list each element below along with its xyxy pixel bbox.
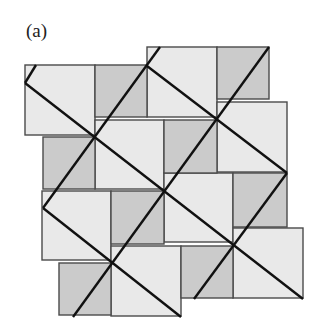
small-square (111, 191, 164, 244)
large-square (111, 246, 181, 316)
small-square (95, 65, 147, 117)
small-square (233, 173, 287, 227)
large-square (25, 65, 95, 135)
small-square (217, 47, 269, 99)
large-square (164, 173, 233, 242)
large-square (217, 102, 287, 172)
small-square (59, 263, 111, 315)
large-square (95, 120, 164, 189)
large-square (233, 228, 303, 298)
pythagorean-tiling-diagram (0, 0, 316, 334)
large-square (147, 47, 217, 117)
large-square (42, 191, 111, 260)
small-square (181, 246, 233, 298)
small-square (43, 137, 95, 189)
